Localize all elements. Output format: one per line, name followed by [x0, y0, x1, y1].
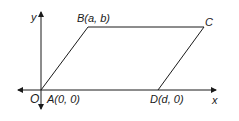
y-axis-label: y — [31, 12, 37, 23]
origin-label: O — [30, 93, 39, 105]
point-b-label: B(a, b) — [77, 13, 110, 24]
parallelogram-edges — [41, 27, 204, 90]
point-a-label: A(0, 0) — [47, 94, 80, 105]
x-axis-label: x — [212, 95, 218, 106]
point-d-label: D(d, 0) — [150, 94, 184, 105]
point-c-label: C — [205, 17, 213, 28]
